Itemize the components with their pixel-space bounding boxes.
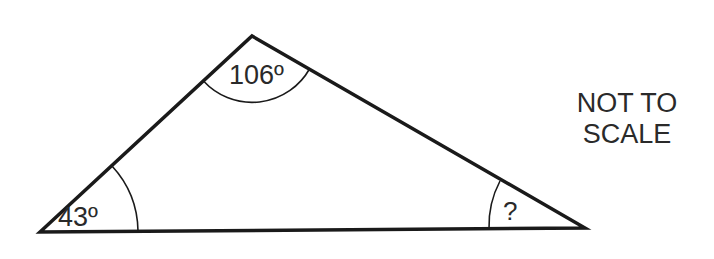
angle-label-left: 43º [58,204,98,231]
angle-label-top: 106º [229,62,284,89]
angle-label-right: ? [503,198,517,224]
note-line-1: NOT TO [557,88,697,119]
not-to-scale-note: NOT TO SCALE [557,88,697,150]
angle-arc-left [112,166,138,231]
angle-arc-right [489,181,500,229]
note-line-2: SCALE [557,119,697,150]
